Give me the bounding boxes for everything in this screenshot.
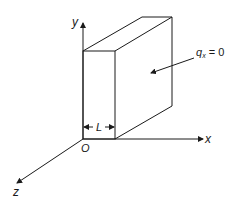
boundary-condition-label: qx = 0 xyxy=(196,46,224,59)
axes xyxy=(17,23,203,183)
origin-label: O xyxy=(81,142,90,154)
wall-top-left-edge xyxy=(83,17,142,51)
x-axis-label: x xyxy=(204,132,212,146)
z-axis xyxy=(17,139,83,183)
wall-diagram: L qx = 0 y x z O xyxy=(0,0,238,203)
y-axis-label: y xyxy=(71,15,79,29)
wall-bottom-right-edge xyxy=(115,106,172,139)
thickness-label: L xyxy=(96,121,102,133)
z-axis-label: z xyxy=(12,185,19,199)
flux-value: = 0 xyxy=(206,46,225,58)
wall-top-right-edge xyxy=(115,17,172,51)
